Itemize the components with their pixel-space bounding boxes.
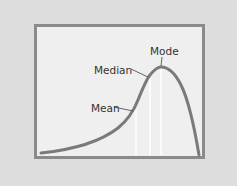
mode-label: Mode	[150, 45, 179, 57]
mean-label: Mean	[91, 102, 120, 114]
median-label: Median	[94, 64, 132, 76]
skewed-distribution-diagram: Mean Median Mode	[0, 0, 237, 186]
diagram-canvas: Mean Median Mode	[0, 0, 237, 186]
